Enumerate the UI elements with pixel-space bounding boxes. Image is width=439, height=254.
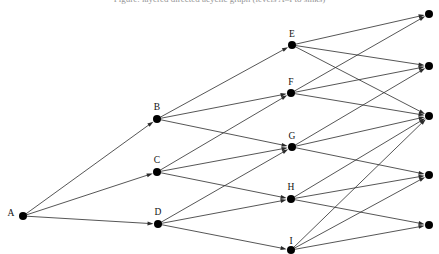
node-layer — [19, 10, 433, 254]
edge-arrowhead — [418, 225, 424, 229]
graph-edge — [294, 94, 420, 115]
graph-edge — [160, 95, 282, 119]
graph-node[interactable] — [425, 112, 433, 120]
graph-node[interactable] — [287, 89, 295, 97]
graph-edge — [294, 177, 420, 199]
graph-edge — [294, 200, 420, 224]
graph-node[interactable] — [287, 195, 295, 203]
graph-node[interactable] — [425, 10, 433, 18]
graph-edge — [160, 98, 283, 171]
graph-edge — [295, 47, 421, 112]
node-label-c: C — [154, 155, 160, 165]
graph-edge — [294, 122, 423, 247]
node-label-a: A — [8, 208, 15, 218]
node-label-h: H — [288, 182, 295, 192]
graph-edge — [26, 216, 149, 223]
figure-canvas: Figure: layered directed acyclic graph (… — [0, 0, 439, 254]
edge-arrowhead — [418, 171, 424, 175]
graph-edge — [26, 124, 150, 214]
graph-node[interactable] — [154, 220, 162, 228]
graph-node[interactable] — [425, 221, 433, 229]
graph-edge — [161, 225, 282, 249]
graph-svg — [0, 0, 439, 254]
graph-node[interactable] — [153, 168, 161, 176]
edge-arrowhead — [418, 221, 424, 225]
edge-arrowhead — [147, 122, 153, 127]
graph-edge — [160, 149, 283, 172]
edge-arrowhead — [280, 246, 286, 250]
edge-arrowhead — [418, 62, 424, 66]
graph-edge — [160, 120, 283, 145]
graph-edge — [160, 49, 284, 117]
node-label-g: G — [289, 131, 296, 141]
graph-node[interactable] — [153, 115, 161, 123]
graph-node[interactable] — [425, 62, 433, 70]
node-label-e: E — [289, 29, 295, 39]
graph-edge — [26, 175, 148, 215]
node-label-i: I — [289, 236, 292, 246]
edge-layer — [26, 14, 426, 250]
graph-node[interactable] — [288, 143, 296, 151]
graph-node[interactable] — [287, 246, 295, 254]
edge-arrowhead — [146, 173, 152, 177]
edge-arrowhead — [281, 143, 287, 147]
edge-arrowhead — [280, 199, 286, 203]
graph-edge — [295, 71, 421, 146]
graph-edge — [160, 173, 282, 198]
node-label-b: B — [154, 102, 160, 112]
node-label-f: F — [288, 77, 293, 87]
graph-node[interactable] — [288, 41, 296, 49]
edge-arrowhead — [280, 195, 286, 199]
graph-edge — [295, 148, 420, 174]
edge-arrowhead — [282, 47, 288, 52]
edge-arrowhead — [147, 221, 153, 225]
graph-node[interactable] — [425, 171, 433, 179]
graph-node[interactable] — [19, 212, 27, 220]
node-label-d: D — [155, 207, 162, 217]
